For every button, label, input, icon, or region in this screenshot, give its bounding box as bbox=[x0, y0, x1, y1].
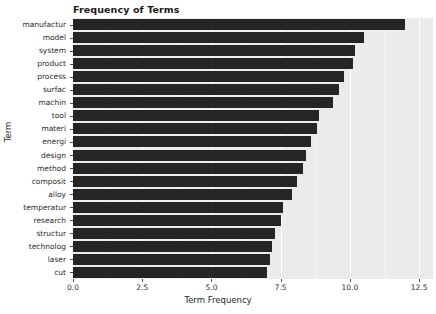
y-tick-label: composit bbox=[0, 176, 66, 187]
y-tick-mark bbox=[70, 116, 73, 117]
bar-row[interactable] bbox=[73, 110, 433, 121]
bar[interactable] bbox=[73, 202, 283, 213]
y-tick-label: design bbox=[0, 150, 66, 161]
gridline-major bbox=[211, 18, 212, 279]
bar-row[interactable] bbox=[73, 136, 433, 147]
y-tick-mark bbox=[70, 103, 73, 104]
bar[interactable] bbox=[73, 19, 405, 30]
x-tick-mark bbox=[350, 279, 351, 282]
y-tick-label: alloy bbox=[0, 189, 66, 200]
bar[interactable] bbox=[73, 84, 339, 95]
x-tick-label: 0.0 bbox=[67, 283, 79, 292]
y-tick-label: research bbox=[0, 215, 66, 226]
y-tick-label: tool bbox=[0, 110, 66, 121]
gridline-major bbox=[419, 18, 420, 279]
y-tick-mark bbox=[70, 233, 73, 234]
x-tick-label: 10.0 bbox=[342, 283, 359, 292]
gridline-minor bbox=[315, 18, 316, 279]
y-tick-mark bbox=[70, 25, 73, 26]
bar-row[interactable] bbox=[73, 241, 433, 252]
gridline-major bbox=[73, 18, 74, 279]
gridline-minor bbox=[385, 18, 386, 279]
bar[interactable] bbox=[73, 189, 292, 200]
bar[interactable] bbox=[73, 228, 275, 239]
y-tick-label: model bbox=[0, 32, 66, 43]
y-tick-mark bbox=[70, 129, 73, 130]
bar[interactable] bbox=[73, 215, 281, 226]
x-tick-mark bbox=[419, 279, 420, 282]
y-tick-mark bbox=[70, 207, 73, 208]
bar-row[interactable] bbox=[73, 254, 433, 265]
bar[interactable] bbox=[73, 176, 297, 187]
y-tick-mark bbox=[70, 246, 73, 247]
bar-row[interactable] bbox=[73, 97, 433, 108]
y-tick-mark bbox=[70, 220, 73, 221]
plot-panel bbox=[73, 18, 433, 279]
bar[interactable] bbox=[73, 58, 353, 69]
gridline-major bbox=[142, 18, 143, 279]
bar-row[interactable] bbox=[73, 58, 433, 69]
x-tick-label: 7.5 bbox=[275, 283, 287, 292]
bar-row[interactable] bbox=[73, 215, 433, 226]
bar[interactable] bbox=[73, 123, 317, 134]
bar[interactable] bbox=[73, 267, 267, 278]
y-tick-label: machin bbox=[0, 97, 66, 108]
bar-row[interactable] bbox=[73, 176, 433, 187]
gridline-minor bbox=[177, 18, 178, 279]
bar[interactable] bbox=[73, 136, 311, 147]
bar[interactable] bbox=[73, 45, 355, 56]
y-tick-label: process bbox=[0, 71, 66, 82]
y-tick-mark bbox=[70, 181, 73, 182]
y-tick-label: temperatur bbox=[0, 202, 66, 213]
bar[interactable] bbox=[73, 241, 272, 252]
bar-row[interactable] bbox=[73, 202, 433, 213]
y-tick-label: product bbox=[0, 58, 66, 69]
y-tick-mark bbox=[70, 142, 73, 143]
y-tick-label: technolog bbox=[0, 241, 66, 252]
bar-row[interactable] bbox=[73, 123, 433, 134]
bar[interactable] bbox=[73, 71, 344, 82]
bar[interactable] bbox=[73, 110, 319, 121]
bar[interactable] bbox=[73, 97, 333, 108]
chart-figure: Frequency of Terms Term manufacturmodels… bbox=[0, 0, 436, 314]
bar-row[interactable] bbox=[73, 228, 433, 239]
y-tick-label: materi bbox=[0, 123, 66, 134]
y-tick-mark bbox=[70, 168, 73, 169]
y-tick-mark bbox=[70, 90, 73, 91]
bar-row[interactable] bbox=[73, 163, 433, 174]
gridline-major bbox=[281, 18, 282, 279]
y-tick-mark bbox=[70, 259, 73, 260]
bar-row[interactable] bbox=[73, 32, 433, 43]
bar-row[interactable] bbox=[73, 150, 433, 161]
bar-row[interactable] bbox=[73, 84, 433, 95]
y-tick-mark bbox=[70, 64, 73, 65]
bar[interactable] bbox=[73, 32, 364, 43]
x-tick-mark bbox=[73, 279, 74, 282]
x-tick-label: 2.5 bbox=[136, 283, 148, 292]
bar-row[interactable] bbox=[73, 267, 433, 278]
x-tick-label: 5.0 bbox=[205, 283, 217, 292]
bar[interactable] bbox=[73, 254, 270, 265]
bar-row[interactable] bbox=[73, 71, 433, 82]
y-tick-mark bbox=[70, 155, 73, 156]
x-axis-label: Term Frequency bbox=[0, 295, 436, 305]
bar[interactable] bbox=[73, 163, 303, 174]
bar-row[interactable] bbox=[73, 45, 433, 56]
bar[interactable] bbox=[73, 150, 306, 161]
y-tick-label: system bbox=[0, 45, 66, 56]
y-tick-label: cut bbox=[0, 267, 66, 278]
x-tick-mark bbox=[142, 279, 143, 282]
x-tick-mark bbox=[281, 279, 282, 282]
y-tick-label: structur bbox=[0, 228, 66, 239]
y-tick-mark bbox=[70, 51, 73, 52]
y-tick-label: surfac bbox=[0, 84, 66, 95]
bar-row[interactable] bbox=[73, 189, 433, 200]
chart-title: Frequency of Terms bbox=[73, 4, 180, 15]
gridline-minor bbox=[108, 18, 109, 279]
y-tick-mark bbox=[70, 77, 73, 78]
x-tick-label: 12.5 bbox=[411, 283, 428, 292]
bar-row[interactable] bbox=[73, 19, 433, 30]
y-tick-label: energi bbox=[0, 136, 66, 147]
y-tick-mark bbox=[70, 38, 73, 39]
x-tick-mark bbox=[211, 279, 212, 282]
